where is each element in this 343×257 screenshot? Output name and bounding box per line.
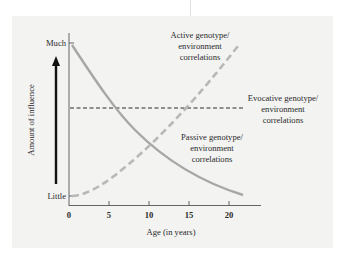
x-tick-label: 20 <box>225 210 234 220</box>
y-tick-label-little: Little <box>47 191 66 201</box>
y-tick-label-much: Much <box>46 38 67 48</box>
x-tick-label: 0 <box>67 210 71 220</box>
label-passive: Passive genotype/ environment correlatio… <box>181 132 243 164</box>
series-active <box>72 46 238 196</box>
svg-text:environment: environment <box>178 41 222 51</box>
svg-text:Evocative genotype/: Evocative genotype/ <box>248 93 319 103</box>
svg-text:environment: environment <box>261 104 305 114</box>
x-tick-label: 5 <box>107 210 111 220</box>
svg-text:environment: environment <box>190 143 234 153</box>
chart: 0 5 10 15 20 Much Little Age (in years) … <box>0 0 343 257</box>
svg-text:correlations: correlations <box>180 52 221 62</box>
arrow-up-icon <box>52 56 60 66</box>
svg-text:correlations: correlations <box>263 115 304 125</box>
x-ticks <box>109 201 229 206</box>
svg-text:Active genotype/: Active genotype/ <box>171 30 231 40</box>
svg-text:Passive genotype/: Passive genotype/ <box>181 132 243 142</box>
y-axis-title: Amount of influence <box>26 84 36 156</box>
series-passive <box>72 45 243 195</box>
svg-text:correlations: correlations <box>192 154 233 164</box>
x-tick-label: 15 <box>185 210 194 220</box>
x-axis-title: Age (in years) <box>146 227 195 237</box>
label-evocative: Evocative genotype/ environment correlat… <box>248 93 319 125</box>
x-tick-label: 10 <box>145 210 154 220</box>
label-active: Active genotype/ environment correlation… <box>171 30 231 62</box>
